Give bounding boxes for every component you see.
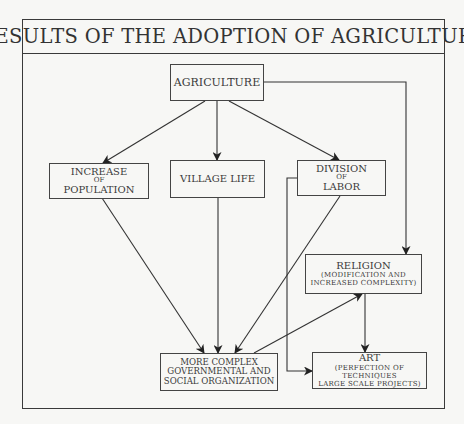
edge-agriculture-population	[103, 101, 205, 163]
node-government-line3: SOCIAL ORGANIZATION	[164, 377, 274, 386]
node-religion-sub1: (MODIFICATION AND	[321, 271, 406, 279]
node-village-life: VILLAGE LIFE	[170, 160, 265, 198]
node-population-line3: POPULATION	[64, 185, 135, 196]
node-agriculture-label: AGRICULTURE	[174, 77, 260, 89]
node-division-of-labor: DIVISION OF LABOR	[297, 160, 386, 196]
edge-agriculture-labor	[229, 101, 339, 160]
node-religion-label: RELIGION	[336, 261, 390, 272]
node-art: ART (PERFECTION OF TECHNIQUES LARGE SCAL…	[312, 352, 427, 389]
node-complex-government: MORE COMPLEX GOVERNMENTAL AND SOCIAL ORG…	[160, 353, 278, 391]
node-village-label: VILLAGE LIFE	[180, 174, 255, 185]
node-religion-sub2: INCREASED COMPLEXITY)	[310, 279, 416, 287]
node-agriculture: AGRICULTURE	[170, 64, 264, 101]
node-increase-of-population: INCREASE OF POPULATION	[49, 163, 149, 199]
edge-government-religion	[254, 294, 362, 353]
node-art-label: ART	[359, 353, 380, 364]
node-religion: RELIGION (MODIFICATION AND INCREASED COM…	[305, 254, 422, 294]
node-labor-line3: LABOR	[323, 182, 360, 193]
node-art-sub1: (PERFECTION OF TECHNIQUES	[313, 364, 426, 380]
node-art-sub2: LARGE SCALE PROJECTS)	[318, 380, 421, 388]
edge-population-government	[102, 198, 204, 353]
